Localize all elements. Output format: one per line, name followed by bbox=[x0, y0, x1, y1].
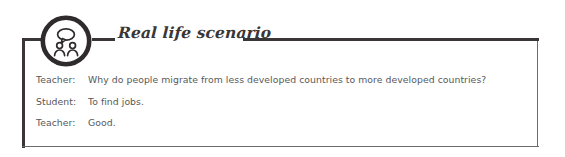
dialogue-speaker: Teacher: bbox=[36, 117, 88, 128]
dialogue-row: Teacher: Good. bbox=[36, 117, 526, 139]
card-bottom-border bbox=[22, 146, 539, 147]
card-title: Real life scenario bbox=[117, 22, 248, 44]
dialogue-list: Teacher: Why do people migrate from less… bbox=[36, 74, 526, 139]
dialogue-row: Teacher: Why do people migrate from less… bbox=[36, 74, 526, 96]
dialogue-text: Why do people migrate from less develope… bbox=[88, 74, 486, 85]
two-people-speech-bubble-icon bbox=[39, 14, 93, 68]
card-top-rule-left-segment bbox=[92, 38, 115, 41]
dialogue-speaker: Teacher: bbox=[36, 74, 88, 85]
card-left-border bbox=[22, 38, 25, 148]
dialogue-speaker: Student: bbox=[36, 96, 88, 107]
dialogue-text: To find jobs. bbox=[88, 96, 144, 107]
dialogue-row: Student: To find jobs. bbox=[36, 96, 526, 118]
card-top-rule-right-segment bbox=[243, 38, 539, 41]
real-life-scenario-card: Real life scenario Teacher: Why do peopl… bbox=[0, 0, 565, 157]
card-right-border bbox=[537, 41, 538, 147]
dialogue-text: Good. bbox=[88, 117, 116, 128]
